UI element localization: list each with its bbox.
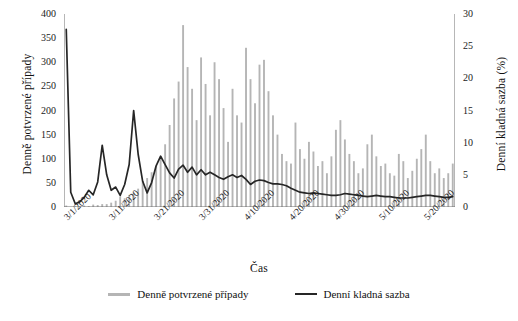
y-axis-right-tick-label: 30	[463, 8, 497, 19]
x-axis-title: Čas	[0, 262, 518, 274]
bar	[330, 156, 332, 207]
bar	[182, 25, 184, 207]
bar	[416, 159, 418, 207]
bar	[209, 115, 211, 207]
bar	[375, 156, 377, 207]
y-axis-left-tick-label: 100	[22, 153, 56, 164]
bar	[384, 164, 386, 207]
bar	[286, 161, 288, 207]
bar	[110, 203, 112, 207]
bar	[218, 79, 220, 207]
legend-label: Denně potvrzené případy	[137, 288, 248, 300]
bar	[200, 57, 202, 207]
bar	[236, 115, 238, 207]
bar	[295, 123, 297, 207]
bar	[245, 48, 247, 207]
bar	[362, 168, 364, 207]
y-axis-right-tick-label: 0	[463, 201, 497, 212]
plot-area	[64, 14, 455, 207]
y-axis-right-tick-label: 25	[463, 40, 497, 51]
legend-label: Denní kladná sazba	[324, 288, 410, 300]
y-axis-left-tick-label: 400	[22, 8, 56, 19]
bar	[155, 166, 157, 207]
bar	[254, 103, 256, 207]
bar	[326, 173, 328, 207]
bar	[299, 149, 301, 207]
bar	[321, 161, 323, 207]
bar	[344, 139, 346, 207]
bar	[290, 164, 292, 207]
bar	[214, 62, 216, 207]
bar	[277, 135, 279, 207]
bar	[411, 171, 413, 207]
chart-figure: Denně potvrzené případy Denní kladná saz…	[0, 0, 518, 321]
bar	[187, 67, 189, 207]
bar	[205, 84, 207, 207]
bar	[250, 79, 252, 207]
bar	[263, 60, 265, 207]
bar	[164, 144, 166, 207]
chart-canvas	[64, 14, 455, 207]
bar	[380, 166, 382, 207]
legend-item[interactable]: Denně potvrzené případy	[108, 288, 248, 300]
legend-swatch-bars	[108, 293, 130, 296]
y-axis-right-tick-label: 20	[463, 72, 497, 83]
legend-item[interactable]: Denní kladná sazba	[295, 288, 410, 300]
bar	[281, 154, 283, 207]
bar	[317, 166, 319, 207]
y-axis-left-tick-label: 200	[22, 105, 56, 116]
y-axis-left-tick-label: 150	[22, 129, 56, 140]
y-axis-left-tick-label: 350	[22, 32, 56, 43]
bar	[232, 89, 234, 207]
bar	[196, 120, 198, 207]
y-axis-right-tick-label: 5	[463, 169, 497, 180]
y-axis-left-tick-label: 250	[22, 80, 56, 91]
y-axis-right-tick-label: 15	[463, 105, 497, 116]
bar	[241, 123, 243, 207]
bar	[429, 161, 431, 207]
y-axis-right-tick-label: 10	[463, 137, 497, 148]
bar	[259, 65, 261, 207]
y-axis-left-tick-label: 0	[22, 201, 56, 212]
bar	[366, 144, 368, 207]
bar	[452, 164, 454, 207]
bar	[169, 125, 171, 207]
bar	[420, 149, 422, 207]
bar	[191, 89, 193, 207]
y-axis-left-tick-label: 300	[22, 56, 56, 67]
legend-swatch-line	[295, 293, 317, 295]
chart-legend: Denně potvrzené případyDenní kladná sazb…	[0, 288, 518, 300]
bar	[160, 159, 162, 207]
y-axis-left-tick-label: 50	[22, 177, 56, 188]
